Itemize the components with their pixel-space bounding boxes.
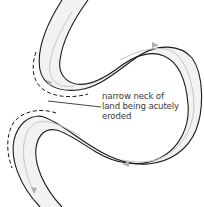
flow-arrow-icon	[152, 42, 159, 48]
annotation-leader-line	[48, 101, 101, 107]
annotation-line-2: land being acutely	[102, 101, 179, 111]
annotation-label: narrow neck of land being acutely eroded	[102, 91, 179, 121]
annotation-line-1: narrow neck of	[102, 91, 179, 101]
annotation-line-3: eroded	[102, 111, 179, 121]
